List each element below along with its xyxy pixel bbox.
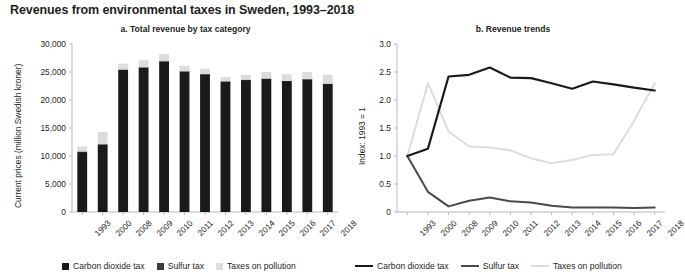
legend-label: Sulfur tax: [483, 261, 519, 271]
legend-item[interactable]: Carbon dioxide tax: [62, 261, 145, 271]
bar-segment: [139, 68, 149, 212]
bar-segment: [261, 79, 271, 212]
panel-b-revenue-trends: b. Revenue trends Index: 1993 = 1 Carbon…: [345, 0, 673, 277]
bar-segment: [139, 60, 149, 67]
legend-label: Taxes on pollution: [553, 261, 622, 271]
panel-b-legend: Carbon dioxide taxSulfur taxTaxes on pol…: [355, 261, 622, 271]
bar-segment: [323, 84, 333, 85]
bar-segment: [139, 67, 149, 68]
trend-line: [407, 156, 654, 208]
bar-segment: [221, 77, 231, 81]
bar-segment: [261, 79, 271, 80]
bar-segment: [77, 151, 87, 152]
bar-segment: [302, 79, 312, 212]
legend-label: Carbon dioxide tax: [377, 261, 449, 271]
bar-segment: [98, 144, 108, 145]
bar-segment: [282, 81, 292, 212]
bar-segment: [118, 70, 128, 212]
bar-segment: [323, 84, 333, 212]
bar-segment: [221, 82, 231, 212]
bar-segment: [323, 75, 333, 84]
bar-segment: [200, 74, 210, 75]
bar-segment: [159, 54, 169, 61]
panel-b-y-tick: 1.0: [345, 151, 391, 161]
panel-b-y-tick: 1.5: [345, 123, 391, 133]
bar-segment: [241, 75, 251, 80]
legend-swatch-icon: [157, 263, 164, 270]
legend-line-icon: [531, 265, 549, 267]
panel-b-y-tick: 3.0: [345, 39, 391, 49]
bar-segment: [118, 64, 128, 70]
panel-a-y-tick: 5,000: [0, 179, 66, 189]
panel-a-total-revenue: a. Total revenue by tax category Current…: [0, 0, 345, 277]
bar-segment: [180, 71, 190, 212]
bar-segment: [241, 80, 251, 212]
panel-a-y-tick: 0: [0, 207, 66, 217]
panel-a-y-tick: 20,000: [0, 95, 66, 105]
bar-segment: [98, 132, 108, 144]
bar-segment: [282, 81, 292, 82]
bar-segment: [241, 80, 251, 81]
bar-segment: [77, 152, 87, 212]
bar-segment: [98, 145, 108, 212]
bar-segment: [302, 72, 312, 79]
bar-segment: [77, 146, 87, 151]
bar-segment: [282, 74, 292, 81]
bar-segment: [302, 79, 312, 80]
bar-segment: [180, 71, 190, 72]
legend-item[interactable]: Sulfur tax: [157, 261, 204, 271]
panel-b-y-tick: 2.0: [345, 95, 391, 105]
legend-item[interactable]: Taxes on pollution: [216, 261, 296, 271]
trend-line: [407, 83, 654, 163]
bar-segment: [159, 61, 169, 62]
bar-segment: [180, 66, 190, 71]
legend-line-icon: [355, 265, 373, 267]
bar-segment: [200, 69, 210, 74]
legend-swatch-icon: [62, 263, 69, 270]
panel-b-y-tick: 2.5: [345, 67, 391, 77]
panel-a-y-tick: 25,000: [0, 67, 66, 77]
bar-segment: [221, 81, 231, 82]
panel-a-legend: Carbon dioxide taxSulfur taxTaxes on pol…: [62, 261, 296, 271]
panel-b-y-tick: 0: [345, 207, 391, 217]
legend-item[interactable]: Taxes on pollution: [531, 261, 622, 271]
bar-segment: [261, 72, 271, 79]
legend-label: Sulfur tax: [168, 261, 204, 271]
trend-line: [407, 68, 654, 156]
panel-a-y-tick: 15,000: [0, 123, 66, 133]
panel-a-y-tick: 10,000: [0, 151, 66, 161]
bar-segment: [118, 70, 128, 71]
legend-line-icon: [461, 265, 479, 267]
bar-segment: [159, 61, 169, 212]
legend-item[interactable]: Carbon dioxide tax: [355, 261, 449, 271]
legend-label: Carbon dioxide tax: [73, 261, 145, 271]
bar-segment: [200, 74, 210, 212]
legend-item[interactable]: Sulfur tax: [461, 261, 519, 271]
legend-label: Taxes on pollution: [227, 261, 296, 271]
panel-a-y-tick: 30,000: [0, 39, 66, 49]
panel-b-y-tick: 0.5: [345, 179, 391, 189]
legend-swatch-icon: [216, 263, 223, 270]
